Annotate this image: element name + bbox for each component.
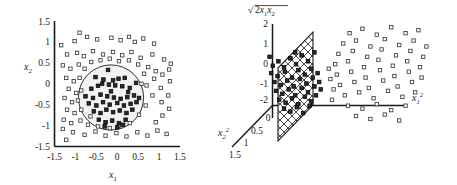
data-point-open: [167, 107, 170, 110]
data-point-filled: [95, 104, 99, 108]
data-point-open: [343, 94, 346, 97]
data-point-open: [420, 76, 423, 79]
left-xtick-2: -0.5: [89, 152, 104, 162]
data-point-filled: [300, 86, 304, 90]
data-point-open: [63, 96, 66, 99]
data-point-filled: [303, 73, 307, 77]
data-point-open: [147, 65, 150, 68]
figure-canvas: 1.5 1 0.5 0 -0.5 -1 -1.5 -1.5 -1 -0.5 0 …: [0, 0, 457, 185]
data-point-filled: [104, 120, 108, 124]
data-point-filled: [289, 57, 293, 61]
data-point-filled: [268, 55, 272, 59]
data-point-open: [59, 44, 62, 47]
data-point-open: [139, 56, 142, 59]
data-point-filled: [313, 85, 317, 89]
data-point-open: [350, 70, 353, 73]
data-point-open: [83, 67, 86, 70]
data-point-open: [95, 38, 98, 41]
data-point-filled: [301, 111, 305, 115]
left-ytick-5: -1: [42, 121, 50, 131]
data-point-filled: [294, 62, 298, 66]
left-xtick-5: 1: [157, 152, 162, 162]
data-point-open: [89, 115, 92, 118]
data-point-open: [394, 54, 397, 57]
data-point-open: [125, 135, 128, 138]
data-point-filled: [297, 68, 301, 72]
figure-kernel-trick: 1.5 1 0.5 0 -0.5 -1 -1.5 -1.5 -1 -0.5 0 …: [0, 0, 457, 185]
data-point-filled: [120, 84, 124, 88]
data-point-filled: [308, 104, 312, 108]
data-point-open: [115, 131, 118, 134]
data-point-open: [380, 48, 383, 51]
data-point-filled: [99, 93, 103, 97]
data-point-open: [73, 39, 76, 42]
data-point-open: [65, 53, 68, 56]
data-point-open: [73, 111, 76, 114]
data-point-open: [78, 31, 81, 34]
data-point-filled: [135, 100, 139, 104]
data-point-filled: [277, 59, 281, 63]
data-point-filled: [100, 82, 104, 86]
data-point-filled: [289, 110, 293, 114]
data-point-filled: [277, 98, 281, 102]
data-point-filled: [90, 87, 94, 91]
data-point-open: [142, 72, 145, 75]
data-point-open: [398, 43, 401, 46]
data-point-open: [121, 54, 124, 57]
data-point-open: [390, 108, 393, 111]
left-xtick-6: 1.5: [174, 152, 186, 162]
data-point-open: [151, 94, 154, 97]
data-point-open: [151, 53, 154, 56]
right-vtick-3: -1: [260, 79, 268, 89]
data-point-filled: [97, 118, 101, 122]
data-point-filled: [117, 121, 121, 125]
data-point-open: [375, 33, 378, 36]
data-point-filled: [113, 84, 117, 88]
left-ytick-4: -0.5: [35, 100, 50, 110]
data-point-filled: [290, 96, 294, 100]
data-point-filled: [110, 119, 114, 123]
data-point-open: [404, 31, 407, 34]
data-point-open: [390, 26, 393, 29]
data-point-filled: [137, 96, 141, 100]
data-point-filled: [87, 102, 91, 106]
data-point-filled: [285, 79, 289, 83]
data-point-open: [369, 117, 372, 120]
data-point-open: [406, 60, 409, 63]
data-point-open: [354, 114, 357, 117]
right-dtick-0: 0: [266, 113, 271, 123]
data-point-open: [117, 59, 120, 62]
data-point-open: [410, 80, 413, 83]
data-point-open: [152, 77, 155, 80]
data-point-open: [330, 98, 333, 101]
right-vtick-1: 1: [263, 39, 268, 49]
data-point-open: [369, 45, 372, 48]
data-point-open: [335, 73, 338, 76]
data-point-filled: [131, 108, 135, 112]
data-point-filled: [282, 107, 286, 111]
data-point-open: [136, 63, 139, 66]
data-point-open: [327, 67, 330, 70]
data-point-open: [80, 108, 83, 111]
data-point-filled: [295, 105, 299, 109]
data-point-open: [361, 27, 364, 30]
data-point-filled: [269, 71, 273, 75]
data-point-filled: [298, 77, 302, 81]
data-point-open: [378, 68, 381, 71]
data-point-open: [67, 87, 70, 90]
data-point-open: [75, 51, 78, 54]
data-point-open: [366, 55, 369, 58]
data-point-open: [407, 70, 410, 73]
data-point-open: [382, 79, 385, 82]
data-point-open: [342, 42, 345, 45]
data-point-open: [383, 113, 386, 116]
data-point-filled: [103, 125, 107, 129]
data-point-filled: [279, 83, 283, 87]
data-point-filled: [303, 95, 307, 99]
data-point-filled: [125, 111, 129, 115]
data-point-filled: [276, 74, 280, 78]
data-point-open: [332, 88, 335, 91]
data-point-filled: [316, 71, 320, 75]
data-point-open: [412, 39, 415, 42]
data-point-open: [391, 64, 394, 67]
